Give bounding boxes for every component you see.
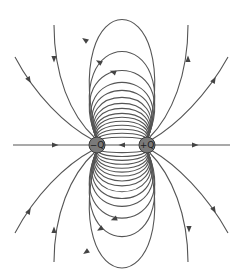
arrow-icon [81,36,89,44]
field-arrows [25,36,218,256]
arrow-icon [82,248,90,256]
field-loop-bottom-4 [92,148,152,199]
positive-charge: +Q [139,137,155,153]
dipole-field-diagram: −Q +Q [0,0,242,279]
arrow-icon [51,227,56,234]
arrow-icon [192,142,199,147]
outer-line-top-left [15,57,93,140]
arrow-icon [109,68,117,75]
outer-line-top-right [151,57,228,140]
negative-charge-label: −Q [90,140,105,150]
arrow-icon [186,226,191,233]
negative-charge: −Q [89,137,105,153]
positive-charge-label: +Q [140,140,155,150]
outer-line-bottom-left [15,150,93,233]
field-loop-top-4 [92,90,152,142]
arrow-icon [25,76,33,84]
outer-line-bottom-right [151,150,228,233]
arrow-icon [119,142,126,147]
arrow-icon [52,142,59,147]
arrow-icon [51,56,56,63]
field-lines [13,20,230,268]
